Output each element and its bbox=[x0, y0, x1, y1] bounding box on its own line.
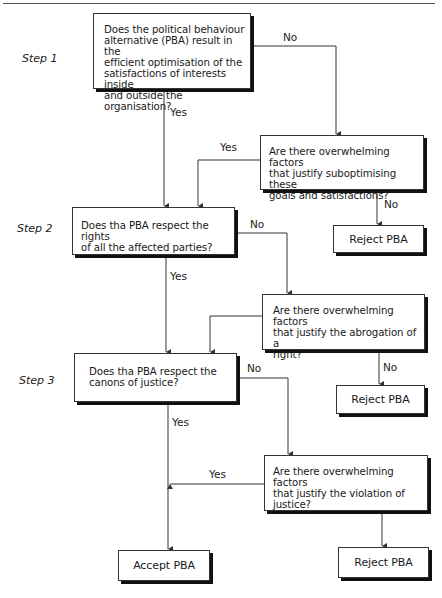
reject-pba-box-2: Reject PBA bbox=[336, 385, 425, 414]
box-text-line: that justify suboptimising these bbox=[269, 168, 423, 190]
reject-label: Reject PBA bbox=[334, 234, 423, 245]
edge-label-q2b-no: No bbox=[383, 361, 397, 373]
step-2-label: Step 2 bbox=[17, 222, 53, 235]
decision-box-justice: Does tha PBA respect the canons of justi… bbox=[74, 353, 237, 402]
decision-box-rights: Does tha PBA respect the rights of all t… bbox=[72, 207, 235, 255]
reject-pba-box-3: Reject PBA bbox=[338, 547, 429, 578]
accept-pba-box: Accept PBA bbox=[118, 550, 210, 581]
box-text-line: that justify the abrogation of a bbox=[273, 327, 424, 349]
decision-box-suboptimising: Are there overwhelming factors that just… bbox=[260, 135, 424, 190]
edge-label-q1-no: No bbox=[283, 31, 297, 43]
reject-pba-box-1: Reject PBA bbox=[333, 225, 424, 253]
box-text-line: that justify the violation of bbox=[273, 488, 427, 499]
accept-label: Accept PBA bbox=[119, 560, 209, 571]
box-text-line: goals and satisfactions? bbox=[269, 190, 423, 201]
decision-box-abrogation: Are there overwhelming factors that just… bbox=[262, 294, 425, 350]
step-3-label: Step 3 bbox=[19, 374, 55, 387]
box-text-line: alternative (PBA) result in the bbox=[104, 35, 250, 57]
box-text-line: Are there overwhelming factors bbox=[273, 466, 427, 488]
step-1-label: Step 1 bbox=[22, 52, 58, 65]
box-text-line: Are there overwhelming factors bbox=[273, 305, 424, 327]
box-text-line: satisfactions of interests inside bbox=[104, 68, 250, 90]
edge-label-q1b-no: No bbox=[384, 198, 398, 210]
box-text-line: Does the political behaviour bbox=[104, 24, 250, 35]
box-text-line: right? bbox=[273, 349, 424, 360]
edge-label-q2-yes: Yes bbox=[170, 270, 187, 282]
edge-label-q3-no: No bbox=[247, 362, 261, 374]
reject-label: Reject PBA bbox=[337, 394, 424, 405]
box-text-line: Does tha PBA respect the bbox=[89, 366, 217, 377]
edge-label-q3b-yes: Yes bbox=[209, 468, 226, 480]
box-text-line: of all the affected parties? bbox=[81, 242, 234, 253]
box-text-line: Does tha PBA respect the rights bbox=[81, 220, 234, 242]
edge-label-q3-yes: Yes bbox=[172, 416, 189, 428]
decision-box-violation: Are there overwhelming factors that just… bbox=[264, 455, 428, 511]
edge-label-q1b-yes: Yes bbox=[220, 141, 237, 153]
decision-box-efficiency: Does the political behaviour alternative… bbox=[93, 13, 251, 89]
box-text-line: justice? bbox=[273, 499, 427, 510]
edge-label-q2-no: No bbox=[250, 218, 264, 230]
box-text-line: canons of justice? bbox=[89, 377, 217, 388]
reject-label: Reject PBA bbox=[339, 557, 428, 568]
edge-label-q1-yes: Yes bbox=[170, 106, 187, 118]
box-text-line: Are there overwhelming factors bbox=[269, 146, 423, 168]
box-text-line: efficient optimisation of the bbox=[104, 57, 250, 68]
